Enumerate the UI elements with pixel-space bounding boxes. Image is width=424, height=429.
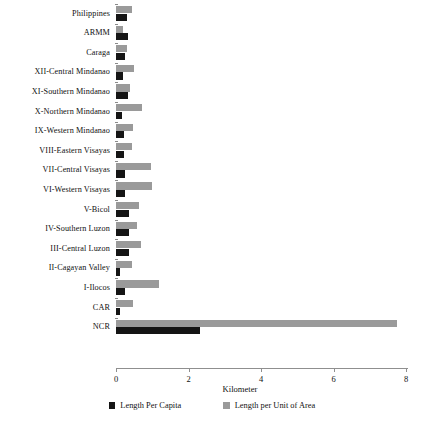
y-axis-tick	[115, 122, 118, 123]
bar-length-per-unit-of-area	[116, 45, 127, 52]
legend-item-length-per-capita: Length Per Capita	[109, 401, 181, 410]
legend-item-length-per-unit-of-area: Length per Unit of Area	[223, 401, 315, 410]
x-axis-tick	[189, 368, 190, 372]
y-axis-tick	[115, 4, 118, 5]
bar-group	[115, 82, 405, 102]
chart-row: XII-Central Mindanao	[0, 63, 424, 83]
bar-length-per-unit-of-area	[116, 280, 159, 287]
bar-length-per-unit-of-area	[116, 222, 137, 229]
bar-length-per-unit-of-area	[116, 84, 130, 91]
bar-length-per-capita	[116, 249, 129, 256]
bar-length-per-unit-of-area	[116, 261, 132, 268]
bar-length-per-capita	[116, 131, 124, 138]
category-label-vii-central-visayas: VII-Central Visayas	[0, 166, 115, 174]
y-axis-tick	[115, 298, 118, 299]
x-axis: 02468	[116, 368, 408, 369]
bar-length-per-unit-of-area	[116, 300, 133, 307]
chart-row: XI-Southern Mindanao	[0, 82, 424, 102]
category-label-v-bicol: V-Bicol	[0, 206, 115, 214]
category-label-caraga: Caraga	[0, 49, 115, 57]
bar-length-per-capita	[116, 170, 125, 177]
y-axis-tick	[115, 141, 118, 142]
y-axis-tick	[115, 278, 118, 279]
bar-group	[115, 63, 405, 83]
bar-group	[115, 24, 405, 44]
bar-length-per-unit-of-area	[116, 182, 152, 189]
chart-row: Philippines	[0, 4, 424, 24]
chart-row: IX-Western Mindanao	[0, 122, 424, 142]
chart-row: IV-Southern Luzon	[0, 220, 424, 240]
bar-length-per-capita	[116, 53, 125, 60]
y-axis-tick	[115, 82, 118, 83]
bar-length-per-capita	[116, 151, 124, 158]
y-axis-tick	[115, 318, 118, 319]
category-label-armm: ARMM	[0, 29, 115, 37]
horizontal-bar-chart: PhilippinesARMMCaragaXII-Central Mindana…	[0, 0, 424, 429]
bar-length-per-capita	[116, 210, 129, 217]
chart-row: ARMM	[0, 24, 424, 44]
bar-length-per-unit-of-area	[116, 124, 133, 131]
bar-length-per-capita	[116, 229, 129, 236]
bar-length-per-capita	[116, 288, 125, 295]
category-label-viii-eastern-visayas: VIII-Eastern Visayas	[0, 147, 115, 155]
bar-length-per-unit-of-area	[116, 26, 123, 33]
category-label-iv-southern-luzon: IV-Southern Luzon	[0, 225, 115, 233]
chart-row: VIII-Eastern Visayas	[0, 141, 424, 161]
x-axis-tick	[116, 368, 117, 372]
chart-row: V-Bicol	[0, 200, 424, 220]
bar-length-per-capita	[116, 92, 128, 99]
bar-group	[115, 318, 405, 338]
legend-swatch-capita-icon	[109, 402, 116, 409]
bar-length-per-unit-of-area	[116, 6, 132, 13]
category-label-ii-cagayan-valley: II-Cagayan Valley	[0, 264, 115, 272]
chart-row: NCR	[0, 318, 424, 338]
chart-row: VI-Western Visayas	[0, 180, 424, 200]
y-axis-tick	[115, 161, 118, 162]
category-label-iii-central-luzon: III-Central Luzon	[0, 245, 115, 253]
y-axis-tick	[115, 200, 118, 201]
bar-length-per-capita	[116, 33, 128, 40]
bar-length-per-capita	[116, 72, 123, 79]
y-axis-tick	[115, 220, 118, 221]
bar-group	[115, 141, 405, 161]
category-label-xi-southern-mindanao: XI-Southern Mindanao	[0, 88, 115, 96]
bar-group	[115, 259, 405, 279]
bar-length-per-capita	[116, 268, 120, 275]
x-axis-label: Kilometer	[0, 384, 424, 394]
x-axis-tick	[406, 368, 407, 372]
bar-group	[115, 43, 405, 63]
bar-group	[115, 102, 405, 122]
category-label-ix-western-mindanao: IX-Western Mindanao	[0, 127, 115, 135]
bar-length-per-capita	[116, 190, 125, 197]
bar-length-per-unit-of-area	[116, 104, 142, 111]
x-axis-tick-label: 8	[404, 374, 408, 384]
y-axis-tick	[115, 24, 118, 25]
category-label-i-ilocos: I-Ilocos	[0, 284, 115, 292]
chart-row: VII-Central Visayas	[0, 161, 424, 181]
bar-group	[115, 122, 405, 142]
bar-group	[115, 161, 405, 181]
bar-length-per-unit-of-area	[116, 320, 397, 327]
category-label-x-northern-mindanao: X-Northern Mindanao	[0, 108, 115, 116]
y-axis-tick	[115, 43, 118, 44]
bar-group	[115, 220, 405, 240]
x-axis-tick	[261, 368, 262, 372]
bar-group	[115, 4, 405, 24]
category-label-philippines: Philippines	[0, 10, 115, 18]
bar-group	[115, 298, 405, 318]
legend-label-length-per-capita: Length Per Capita	[120, 401, 181, 410]
y-axis-tick	[115, 259, 118, 260]
plot-area: PhilippinesARMMCaragaXII-Central Mindana…	[0, 4, 424, 368]
bar-group	[115, 200, 405, 220]
x-axis-tick-label: 4	[259, 374, 263, 384]
y-axis-tick	[115, 63, 118, 64]
bar-length-per-unit-of-area	[116, 65, 134, 72]
legend-swatch-area-icon	[223, 402, 230, 409]
y-axis-tick	[115, 180, 118, 181]
y-axis-tick	[115, 102, 118, 103]
bar-length-per-unit-of-area	[116, 241, 141, 248]
category-label-ncr: NCR	[0, 323, 115, 331]
bar-length-per-capita	[116, 308, 120, 315]
bar-group	[115, 180, 405, 200]
legend-label-length-per-unit-of-area: Length per Unit of Area	[235, 401, 315, 410]
